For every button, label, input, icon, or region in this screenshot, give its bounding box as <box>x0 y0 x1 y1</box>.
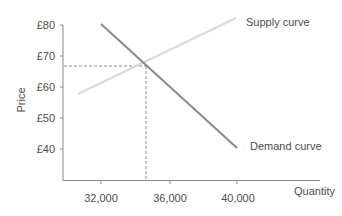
x-axis-label: Quantity <box>294 185 335 197</box>
x-tick-label: 40,000 <box>221 192 255 204</box>
y-tick-label: £70 <box>37 50 55 62</box>
supply-curve-label: Supply curve <box>246 16 310 28</box>
y-axis-label: Price <box>15 87 27 112</box>
supply-demand-chart: £80 £70 £60 £50 £40 32,000 36,000 40,000… <box>0 0 342 216</box>
x-tick-label: 32,000 <box>84 192 118 204</box>
y-tick-label: £40 <box>37 143 55 155</box>
supply-curve-line <box>78 18 236 94</box>
demand-curve-label: Demand curve <box>250 140 322 152</box>
chart-svg: £80 £70 £60 £50 £40 32,000 36,000 40,000… <box>0 0 342 216</box>
y-tick-label: £80 <box>37 19 55 31</box>
y-tick-label: £50 <box>37 112 55 124</box>
x-tick-label: 36,000 <box>153 192 187 204</box>
demand-curve-line <box>101 24 237 148</box>
y-tick-label: £60 <box>37 81 55 93</box>
